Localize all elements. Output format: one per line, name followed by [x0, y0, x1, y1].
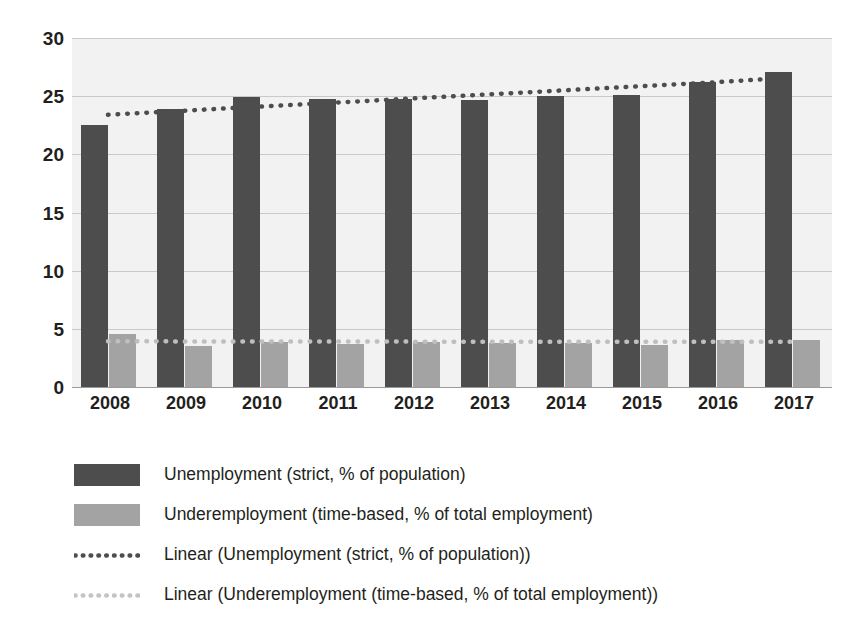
bar — [565, 343, 592, 387]
bar — [109, 334, 136, 388]
legend-item-label: Underemployment (time-based, % of total … — [164, 505, 593, 524]
x-axis-tick-label: 2017 — [756, 394, 832, 412]
y-axis: 302520151050 — [0, 0, 64, 633]
bar-group — [233, 38, 288, 387]
bar — [413, 342, 440, 387]
x-axis-tick-label: 2012 — [376, 394, 452, 412]
x-axis-tick-label: 2014 — [528, 394, 604, 412]
bar — [793, 340, 820, 387]
legend-key-dotted — [74, 584, 140, 606]
bar — [765, 72, 792, 387]
legend-key-swatch — [74, 464, 140, 486]
bar-group — [461, 38, 516, 387]
legend-item-label: Unemployment (strict, % of population) — [164, 465, 466, 484]
y-axis-tick-label: 10 — [8, 261, 64, 280]
y-axis-tick-label: 20 — [8, 145, 64, 164]
bar-group — [537, 38, 592, 387]
legend-item[interactable]: Linear (Unemployment (strict, % of popul… — [74, 535, 774, 575]
bar — [81, 125, 108, 387]
bar — [613, 95, 640, 387]
legend-item-label: Linear (Unemployment (strict, % of popul… — [164, 545, 531, 564]
legend-swatch-icon — [74, 464, 140, 486]
legend-item[interactable]: Linear (Underemployment (time-based, % o… — [74, 575, 774, 615]
bar-group — [81, 38, 136, 387]
x-axis-tick-label: 2009 — [148, 394, 224, 412]
x-axis-tick-label: 2015 — [604, 394, 680, 412]
y-axis-tick-label: 0 — [8, 378, 64, 397]
legend-dotted-line-icon — [74, 592, 140, 599]
bar — [233, 97, 260, 387]
bar — [489, 343, 516, 387]
x-axis-tick-label: 2010 — [224, 394, 300, 412]
chart-figure: 302520151050 200820092010201120122013201… — [0, 0, 856, 633]
bar — [537, 96, 564, 387]
legend-swatch-icon — [74, 504, 140, 526]
x-axis-tick-label: 2011 — [300, 394, 376, 412]
bar-group — [385, 38, 440, 387]
legend-item[interactable]: Unemployment (strict, % of population) — [74, 455, 774, 495]
legend-dotted-line-icon — [74, 552, 140, 559]
y-axis-tick-label: 30 — [8, 29, 64, 48]
bar — [309, 99, 336, 388]
x-axis-tick-label: 2016 — [680, 394, 756, 412]
bar — [337, 344, 364, 387]
bar-group — [157, 38, 212, 387]
bar-group — [689, 38, 744, 387]
bar-group — [309, 38, 364, 387]
bar — [261, 342, 288, 387]
legend-item[interactable]: Underemployment (time-based, % of total … — [74, 495, 774, 535]
legend-key-swatch — [74, 504, 140, 526]
bar — [385, 99, 412, 388]
y-axis-tick-label: 25 — [8, 87, 64, 106]
y-axis-tick-label: 5 — [8, 319, 64, 338]
y-axis-tick-label: 15 — [8, 203, 64, 222]
bar-group — [765, 38, 820, 387]
bar — [641, 345, 668, 387]
x-axis-line — [72, 387, 832, 388]
bar — [717, 340, 744, 387]
x-axis-tick-label: 2013 — [452, 394, 528, 412]
legend-item-label: Linear (Underemployment (time-based, % o… — [164, 585, 658, 604]
bar-group — [613, 38, 668, 387]
bar — [185, 346, 212, 387]
x-axis-tick-label: 2008 — [72, 394, 148, 412]
bar — [689, 82, 716, 387]
plot-area — [72, 38, 832, 387]
bar — [157, 109, 184, 387]
legend-key-dotted — [74, 544, 140, 566]
bar — [461, 100, 488, 387]
chart-legend: Unemployment (strict, % of population)Un… — [74, 455, 774, 615]
